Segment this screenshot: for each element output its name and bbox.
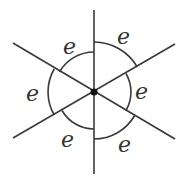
- label-bottom-left: e: [61, 127, 74, 152]
- label-top-right: e: [117, 24, 130, 49]
- hexagonal-vertex-diagram: eeeeee: [0, 0, 180, 178]
- label-top-left: e: [63, 34, 76, 59]
- arc-left: [48, 69, 54, 115]
- angle-labels: eeeeee: [26, 24, 148, 157]
- arc-top-right: [94, 42, 137, 67]
- label-left: e: [26, 81, 39, 106]
- label-bottom-right: e: [118, 132, 131, 157]
- label-right: e: [135, 79, 148, 104]
- center-vertex: [91, 89, 98, 96]
- arc-right: [126, 74, 131, 111]
